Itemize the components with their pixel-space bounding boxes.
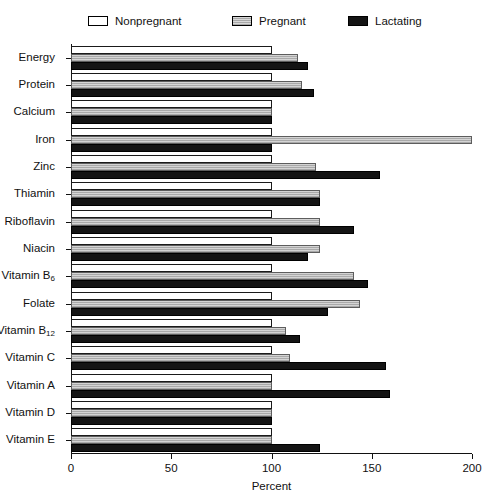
legend-label-pregnant: Pregnant <box>259 15 306 27</box>
y-tick-mark <box>66 140 71 141</box>
y-tick-label-zinc: Zinc <box>33 160 55 172</box>
x-tick-label-0: 0 <box>68 462 74 474</box>
bar-lactating <box>71 144 272 152</box>
y-tick-label-folate: Folate <box>23 297 55 309</box>
bar-pregnant <box>71 272 354 280</box>
bar-group-riboflavin <box>71 208 472 235</box>
bar-lactating <box>71 390 390 398</box>
bar-chart-plot-area: EnergyProteinCalciumIronZincThiaminRibof… <box>71 44 472 454</box>
bar-pregnant <box>71 354 290 362</box>
x-tick-mark <box>272 454 273 459</box>
legend-label-lactating: Lactating <box>375 15 422 27</box>
bar-nonpregnant <box>71 155 272 163</box>
y-tick-label-protein: Protein <box>19 78 55 90</box>
bar-lactating <box>71 308 328 316</box>
bar-nonpregnant <box>71 374 272 382</box>
bar-group-vitamin-b6 <box>71 263 472 290</box>
legend-swatch-pregnant-icon <box>232 16 252 26</box>
y-tick-mark <box>66 386 71 387</box>
bar-pregnant <box>71 190 320 198</box>
y-tick-mark <box>66 194 71 195</box>
bar-group-vitamin-d <box>71 399 472 426</box>
y-tick-mark <box>66 222 71 223</box>
y-tick-mark <box>66 331 71 332</box>
y-tick-label-energy: Energy <box>19 51 55 63</box>
legend-swatch-nonpregnant-icon <box>88 16 108 26</box>
legend-label-nonpregnant: Nonpregnant <box>115 15 182 27</box>
bar-group-vitamin-c <box>71 345 472 372</box>
bar-group-folate <box>71 290 472 317</box>
y-tick-mark <box>66 304 71 305</box>
bar-nonpregnant <box>71 346 272 354</box>
chart-legend: Nonpregnant Pregnant Lactating <box>0 12 482 34</box>
bar-pregnant <box>71 218 320 226</box>
x-axis-title: Percent <box>71 480 472 492</box>
bar-nonpregnant <box>71 73 272 81</box>
bar-group-protein <box>71 71 472 98</box>
bar-group-energy <box>71 44 472 71</box>
legend-swatch-lactating-icon <box>348 16 368 26</box>
bar-group-iron <box>71 126 472 153</box>
y-tick-mark <box>66 413 71 414</box>
legend-entry-pregnant: Pregnant <box>232 15 306 27</box>
bar-lactating <box>71 444 320 452</box>
bar-nonpregnant <box>71 237 272 245</box>
bar-nonpregnant <box>71 128 272 136</box>
bar-pregnant <box>71 300 360 308</box>
y-tick-label-vitamin-d: Vitamin D <box>5 406 55 418</box>
y-tick-mark <box>66 276 71 277</box>
bar-lactating <box>71 171 380 179</box>
bar-pregnant <box>71 136 472 144</box>
x-tick-label-100: 100 <box>262 462 281 474</box>
y-tick-mark <box>66 58 71 59</box>
y-tick-mark <box>66 112 71 113</box>
y-tick-label-vitamin-a: Vitamin A <box>7 379 55 391</box>
bar-lactating <box>71 62 308 70</box>
y-tick-label-thiamin: Thiamin <box>14 187 55 199</box>
bar-pregnant <box>71 54 298 62</box>
bar-group-zinc <box>71 153 472 180</box>
bar-pregnant <box>71 382 272 390</box>
x-tick-mark <box>171 454 172 459</box>
y-tick-label-vitamin-e: Vitamin E <box>6 433 55 445</box>
x-tick-mark <box>71 454 72 459</box>
bar-lactating <box>71 226 354 234</box>
y-tick-mark <box>66 249 71 250</box>
bar-lactating <box>71 89 314 97</box>
y-tick-label-vitamin-b12: Vitamin B12 <box>0 324 55 338</box>
bar-nonpregnant <box>71 100 272 108</box>
bar-lactating <box>71 280 368 288</box>
legend-entry-lactating: Lactating <box>348 15 422 27</box>
bar-lactating <box>71 335 300 343</box>
bar-group-vitamin-a <box>71 372 472 399</box>
bar-pregnant <box>71 108 272 116</box>
y-tick-label-vitamin-c: Vitamin C <box>5 351 55 363</box>
bar-pregnant <box>71 327 286 335</box>
bar-group-niacin <box>71 235 472 262</box>
x-tick-label-150: 150 <box>362 462 381 474</box>
x-tick-label-50: 50 <box>165 462 178 474</box>
bar-pregnant <box>71 436 272 444</box>
bar-group-vitamin-e <box>71 427 472 454</box>
bar-lactating <box>71 116 272 124</box>
bar-nonpregnant <box>71 428 272 436</box>
bar-lactating <box>71 198 320 206</box>
bar-pregnant <box>71 245 320 253</box>
bar-nonpregnant <box>71 182 272 190</box>
y-tick-label-riboflavin: Riboflavin <box>5 215 56 227</box>
y-tick-label-iron: Iron <box>35 133 55 145</box>
bar-group-calcium <box>71 99 472 126</box>
x-tick-mark <box>372 454 373 459</box>
y-tick-mark <box>66 358 71 359</box>
x-tick-mark <box>472 454 473 459</box>
y-tick-label-calcium: Calcium <box>13 105 55 117</box>
bar-lactating <box>71 362 386 370</box>
bar-group-vitamin-b12 <box>71 317 472 344</box>
y-tick-mark <box>66 85 71 86</box>
bar-nonpregnant <box>71 319 272 327</box>
y-tick-mark <box>66 440 71 441</box>
bar-nonpregnant <box>71 210 272 218</box>
y-tick-mark <box>66 167 71 168</box>
bar-pregnant <box>71 81 302 89</box>
bar-lactating <box>71 253 308 261</box>
